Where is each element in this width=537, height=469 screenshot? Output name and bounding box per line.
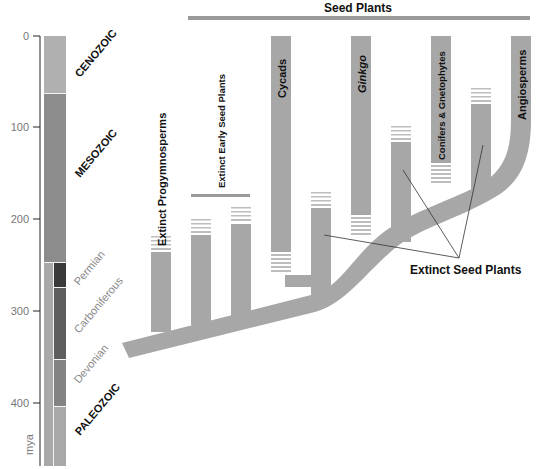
early-seed-plant-bar-2 xyxy=(231,224,251,319)
permian-band xyxy=(54,263,66,287)
cenozoic-label: CENOZOIC xyxy=(72,27,119,79)
seed-plants-label: Seed Plants xyxy=(324,1,392,15)
extinct-seed-plant-bar-2 xyxy=(391,142,411,242)
ginkgo-label: Ginkgo xyxy=(356,55,368,93)
tick-300: 300 xyxy=(11,305,29,317)
seed-plant-phylogeny-diagram: Seed Plants 0 100 200 300 400 mya CENOZO… xyxy=(0,0,537,469)
extinct-seed-plant-2-fade-stripes xyxy=(391,126,411,140)
extinct-seed-plant-3-fade-stripes xyxy=(471,88,491,102)
ginkgo-stripes xyxy=(351,217,371,235)
cenozoic-band xyxy=(44,36,66,93)
extinct-seed-plant-1-fade-stripes xyxy=(311,192,331,206)
mesozoic-label: MESOZOIC xyxy=(72,127,119,180)
conifers-stripes xyxy=(431,165,451,183)
early-seed-plants-group-bar xyxy=(191,194,250,197)
early-seed-plant-bar-1 xyxy=(191,235,211,325)
progymnosperms-bar xyxy=(151,252,171,332)
axis-unit-label: mya xyxy=(23,433,35,455)
conifers-label: Conifers & Gnetophytes xyxy=(436,51,447,160)
extinct-seed-plant-bar-3 xyxy=(471,104,491,189)
carboniferous-band xyxy=(54,288,66,359)
devonian-band xyxy=(54,360,66,406)
extinct-seed-plants-label: Extinct Seed Plants xyxy=(410,263,522,277)
time-axis: 0 100 200 300 400 mya xyxy=(11,30,40,466)
progymnosperms-label: Extinct Progymnosperms xyxy=(156,113,168,246)
early-seed-plant-1-fade-stripes xyxy=(191,219,211,233)
extinct-seed-plant-bar-1 xyxy=(311,208,331,298)
permian-label: Permian xyxy=(71,248,107,287)
mesozoic-band xyxy=(44,94,66,262)
angiosperms-label: Angiosperms xyxy=(516,50,528,120)
tick-200: 200 xyxy=(11,213,29,225)
tick-400: 400 xyxy=(11,397,29,409)
early-seed-plant-2-fade-stripes xyxy=(231,207,251,221)
tick-100: 100 xyxy=(11,121,29,133)
tick-0: 0 xyxy=(23,30,29,42)
devonian-label: Devonian xyxy=(71,342,110,385)
early-seed-plants-label: Extinct Early Seed Plants xyxy=(216,74,227,188)
cycads-stripes xyxy=(271,254,291,272)
cycads-label: Cycads xyxy=(276,59,288,98)
seed-plants-group-bar xyxy=(188,16,530,20)
paleozoic-label: PALEOZOIC xyxy=(72,381,122,437)
geologic-timescale xyxy=(44,36,66,466)
